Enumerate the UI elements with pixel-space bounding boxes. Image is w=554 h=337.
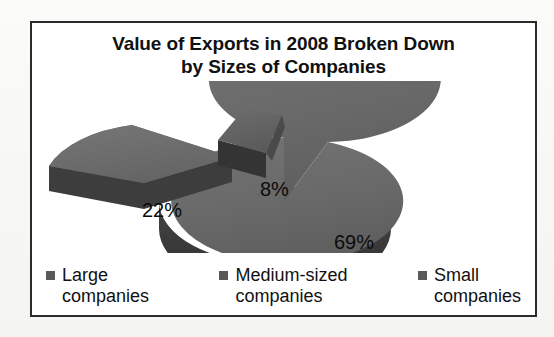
legend-label-large: Large companies	[62, 265, 149, 307]
chart-page: Value of Exports in 2008 Broken Down by …	[0, 0, 554, 337]
legend-swatch-icon-medium	[219, 271, 228, 280]
legend-label-medium: Medium-sized companies	[235, 265, 347, 307]
pie-label-small: 8%	[260, 178, 289, 201]
pie-svg	[32, 81, 535, 253]
legend-item-large[interactable]: Large companies	[46, 265, 149, 307]
legend-item-medium[interactable]: Medium-sized companies	[219, 265, 347, 307]
chart-frame: Value of Exports in 2008 Broken Down by …	[30, 21, 537, 317]
chart-title-line-1: Value of Exports in 2008 Broken Down	[46, 32, 521, 55]
chart-title-line-2: by Sizes of Companies	[46, 55, 521, 78]
chart-title: Value of Exports in 2008 Broken Down by …	[32, 32, 535, 78]
chart-legend: Large companies Medium-sized companies S…	[38, 265, 529, 307]
legend-item-small[interactable]: Small companies	[418, 265, 521, 307]
pie-label-large: 69%	[334, 231, 374, 254]
legend-label-small: Small companies	[434, 265, 521, 307]
pie-chart-graphic: 69% 22% 8%	[32, 81, 535, 253]
pie-label-medium: 22%	[142, 199, 182, 222]
legend-swatch-icon-large	[46, 271, 55, 280]
legend-swatch-icon-small	[418, 271, 427, 280]
